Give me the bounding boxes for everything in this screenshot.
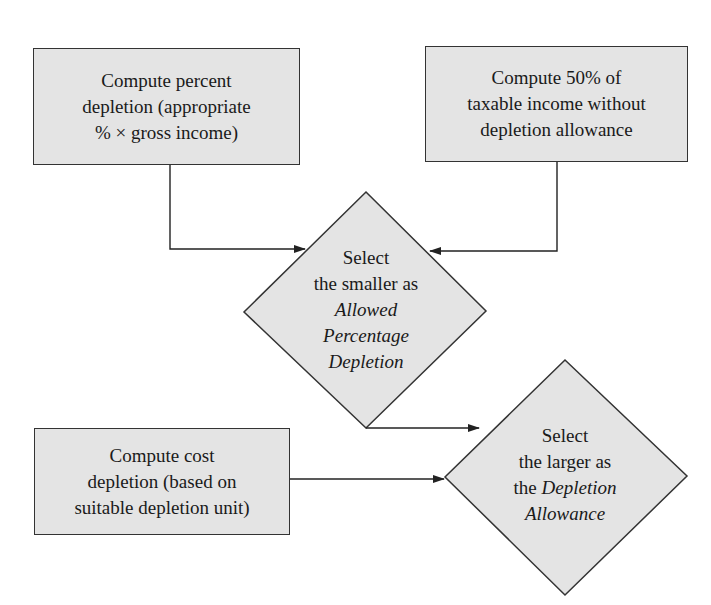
decision-smaller-label: Select the smaller as Allowed Percentage… xyxy=(276,240,456,380)
label-line: the larger as xyxy=(519,449,612,475)
label-line: the smaller as xyxy=(314,271,418,297)
label-italic: Depletion xyxy=(542,477,617,498)
node-text: Compute 50% of taxable income without de… xyxy=(467,65,645,143)
connector-fifty-to-smaller xyxy=(430,162,557,251)
node-text: Compute percent depletion (appropriate %… xyxy=(82,68,250,146)
node-compute-cost-depletion: Compute cost depletion (based on suitabl… xyxy=(34,428,290,535)
label-line: Select xyxy=(343,245,389,271)
label-line-italic: Percentage xyxy=(323,323,409,349)
label-line: Select xyxy=(542,423,588,449)
node-text: Compute cost depletion (based on suitabl… xyxy=(74,443,249,521)
node-compute-percent-depletion: Compute percent depletion (appropriate %… xyxy=(33,48,300,165)
node-compute-fifty-percent: Compute 50% of taxable income without de… xyxy=(425,46,688,162)
label-line-mixed: the Depletion xyxy=(514,475,617,501)
label-line-italic: Depletion xyxy=(329,349,404,375)
label-line-italic: Allowance xyxy=(525,501,605,527)
label-prefix: the xyxy=(514,477,542,498)
decision-larger-label: Select the larger as the Depletion Allow… xyxy=(475,419,655,531)
connector-percent-to-smaller xyxy=(170,165,305,249)
label-line-italic: Allowed xyxy=(335,297,397,323)
